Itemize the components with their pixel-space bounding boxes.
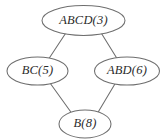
edge-top-right (102, 34, 118, 59)
edge-top-left (49, 34, 66, 59)
node-right[interactable]: ABD(6) (95, 57, 160, 85)
edge-left-bottom (50, 83, 71, 112)
edge-right-bottom (99, 83, 116, 112)
node-bottom[interactable]: B(8) (59, 110, 111, 138)
node-left[interactable]: BC(5) (7, 57, 68, 85)
node-top-label: ABCD(3) (58, 13, 108, 27)
node-right-label: ABD(6) (106, 63, 147, 77)
node-bottom-label: B(8) (73, 116, 96, 130)
node-left-label: BC(5) (22, 63, 54, 77)
diagram-canvas: ABCD(3) BC(5) ABD(6) B(8) (0, 0, 164, 139)
node-top[interactable]: ABCD(3) (42, 6, 125, 36)
lattice-diagram: ABCD(3) BC(5) ABD(6) B(8) (0, 0, 164, 139)
